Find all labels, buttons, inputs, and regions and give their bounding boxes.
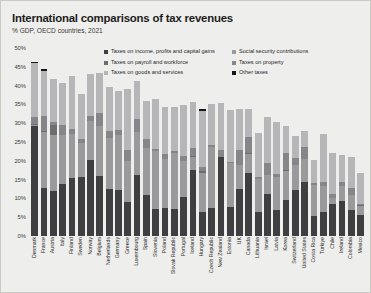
x-axis-tick-label: New Zealand	[218, 237, 223, 268]
bar-segment	[180, 105, 187, 156]
bar-column[interactable]	[216, 48, 225, 236]
x-axis-tick-label: Chile	[330, 237, 335, 249]
bar-column[interactable]	[337, 48, 346, 236]
bar-segment	[96, 73, 103, 113]
bar-column[interactable]	[151, 48, 160, 236]
bar-segment	[190, 170, 197, 236]
stacked-bar	[106, 87, 113, 236]
bar-column[interactable]	[254, 48, 263, 236]
bar-column[interactable]	[188, 48, 197, 236]
x-axis-tick: Netherlands	[105, 237, 114, 293]
x-axis-tick: Türkiye	[319, 237, 328, 293]
bar-column[interactable]	[309, 48, 318, 236]
bar-segment	[301, 147, 308, 158]
bar-segment	[106, 189, 113, 236]
bar-segment	[320, 186, 327, 212]
x-axis-tick-label: UK	[237, 237, 242, 244]
bar-segment	[283, 171, 290, 200]
x-axis-tick: Korea	[281, 237, 290, 293]
bar-column[interactable]	[86, 48, 95, 236]
x-axis-tick-label: Israel	[265, 237, 270, 250]
plot-area: 50%45%40%35%30%25%20%15%10%5%0%	[30, 48, 365, 236]
bar-column[interactable]	[105, 48, 114, 236]
bar-column[interactable]	[114, 48, 123, 236]
bar-segment	[106, 87, 113, 131]
bar-segment	[245, 137, 252, 153]
bar-column[interactable]	[49, 48, 58, 236]
x-axis-tick-label: Hungary	[200, 237, 205, 257]
bar-segment	[245, 173, 252, 236]
y-axis-tick-label: 25%	[14, 139, 26, 145]
bar-column[interactable]	[67, 48, 76, 236]
bar-segment	[190, 148, 197, 156]
bar-column[interactable]	[356, 48, 365, 236]
stacked-bar	[301, 131, 308, 236]
bar-column[interactable]	[244, 48, 253, 236]
bar-column[interactable]	[226, 48, 235, 236]
bar-column[interactable]	[319, 48, 328, 236]
bar-segment	[124, 150, 131, 161]
bar-column[interactable]	[170, 48, 179, 236]
x-axis-tick: Austria	[49, 237, 58, 293]
bar-segment	[292, 158, 299, 165]
bar-segment	[41, 116, 48, 130]
bar-column[interactable]	[142, 48, 151, 236]
bar-segment	[143, 139, 150, 148]
bar-group	[30, 48, 365, 236]
x-axis-tick-label: Lithuania	[256, 237, 261, 258]
bar-segment	[208, 147, 215, 208]
bar-segment	[236, 109, 243, 150]
bar-column[interactable]	[77, 48, 86, 236]
bar-segment	[41, 188, 48, 236]
bar-segment	[264, 117, 271, 163]
bar-column[interactable]	[30, 48, 39, 236]
bar-segment	[245, 154, 252, 172]
bar-column[interactable]	[95, 48, 104, 236]
bar-column[interactable]	[263, 48, 272, 236]
x-axis-tick-label: Czech Republic	[209, 237, 214, 273]
bar-column[interactable]	[272, 48, 281, 236]
stacked-bar	[171, 107, 178, 236]
x-axis-tick: Portugal	[179, 237, 188, 293]
stacked-bar	[273, 122, 280, 236]
stacked-bar	[143, 101, 150, 236]
bar-segment	[106, 138, 113, 190]
x-axis-tick: Sweden	[77, 237, 86, 293]
bar-segment	[348, 157, 355, 187]
stacked-bar	[41, 69, 48, 236]
bar-segment	[264, 175, 271, 195]
bar-column[interactable]	[132, 48, 141, 236]
bar-segment	[357, 173, 364, 205]
bar-column[interactable]	[207, 48, 216, 236]
bar-segment	[31, 63, 38, 117]
bar-column[interactable]	[39, 48, 48, 236]
bar-column[interactable]	[347, 48, 356, 236]
bar-segment	[180, 161, 187, 196]
bar-column[interactable]	[291, 48, 300, 236]
bar-segment	[134, 132, 141, 174]
bar-column[interactable]	[328, 48, 337, 236]
stacked-bar	[348, 157, 355, 236]
x-axis-tick: Latvia	[272, 237, 281, 293]
bar-column[interactable]	[58, 48, 67, 236]
bar-column[interactable]	[179, 48, 188, 236]
x-axis-tick-label: Austria	[51, 237, 56, 253]
x-axis-tick-label: Estonia	[228, 237, 233, 254]
bar-column[interactable]	[160, 48, 169, 236]
bar-column[interactable]	[123, 48, 132, 236]
stacked-bar	[329, 153, 336, 236]
x-axis-tick-label: Slovak Republic	[172, 237, 177, 274]
x-axis-tick-label: Spain	[144, 237, 149, 250]
x-axis-tick: Chile	[328, 237, 337, 293]
bar-column[interactable]	[198, 48, 207, 236]
bar-column[interactable]	[235, 48, 244, 236]
x-axis-tick-label: Poland	[162, 237, 167, 253]
bar-segment	[190, 157, 197, 169]
bar-segment	[87, 74, 94, 116]
bar-segment	[273, 210, 280, 236]
bar-column[interactable]	[281, 48, 290, 236]
x-axis-tick-label: Costa Rica	[311, 237, 316, 262]
bar-column[interactable]	[300, 48, 309, 236]
y-axis-tick-label: 15%	[14, 177, 26, 183]
x-axis-tick: Mexico	[356, 237, 365, 293]
